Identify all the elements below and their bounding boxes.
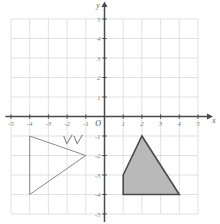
x-tick-label: -1 <box>83 120 89 128</box>
x-tick-label: 3 <box>158 120 163 128</box>
coordinate-plane-svg: -5-4-3-2-11234554321-1-2-3-4-5Oxy <box>0 0 220 224</box>
y-tick-label: -1 <box>95 133 101 141</box>
y-tick-label: 3 <box>96 55 101 63</box>
y-tick-label: 4 <box>97 35 101 43</box>
y-tick-label: -2 <box>95 152 101 160</box>
x-tick-label: -2 <box>64 120 70 128</box>
y-tick-label: 2 <box>97 74 101 82</box>
x-tick-label: 1 <box>121 120 125 128</box>
y-tick-label: 5 <box>97 16 101 24</box>
x-tick-label: -5 <box>8 120 14 128</box>
y-axis-name-label: y <box>95 1 100 10</box>
x-tick-label: 5 <box>196 120 200 128</box>
x-tick-label: -4 <box>27 120 33 128</box>
y-tick-label: -5 <box>95 211 101 219</box>
y-tick-label: -4 <box>95 191 101 199</box>
x-tick-label: 2 <box>140 120 144 128</box>
tick-labels: -5-4-3-2-11234554321-1-2-3-4-5Oxy <box>8 1 216 219</box>
origin-label: O <box>95 119 101 128</box>
right-quadrilateral-shaded <box>123 136 179 195</box>
y-tick-label: -3 <box>95 172 101 180</box>
x-tick-label: -3 <box>45 120 51 128</box>
x-axis-name-label: x <box>211 116 216 125</box>
y-axis-arrowhead-icon <box>102 2 108 8</box>
x-tick-label: 4 <box>178 120 182 128</box>
axes <box>6 2 214 223</box>
y-tick-label: 1 <box>97 94 101 102</box>
left-triangle-outline <box>30 136 86 195</box>
coordinate-grid-figure: -5-4-3-2-11234554321-1-2-3-4-5Oxy <box>0 0 220 224</box>
